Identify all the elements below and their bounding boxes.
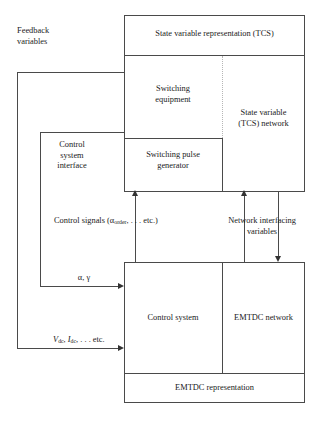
interface-path-bottom-segment [40,286,121,287]
annotation-vdc-idc-tail: , . . . etc. [76,335,105,344]
annotation-control-signals: Control signals (αorder, . . . etc.) [54,216,214,228]
annotation-vdc-idc: Vdc, Idc, . . . etc. [53,335,143,347]
annotation-control-signals-subscript: order [114,219,126,225]
pulse-network-divider [222,138,223,192]
block-label-control-system: Control system [124,313,222,324]
diagram-canvas: State variable representation (TCS) Swit… [0,0,322,424]
annotation-control-system-interface: Control system interface [32,140,112,172]
interface-arrowhead-alpha-gamma [118,283,124,289]
annotation-control-signals-main: Control signals (α [54,216,114,225]
block-label-state-variable-representation: State variable representation (TCS) [124,29,305,40]
block-label-switching-pulse-generator: Switching pulse generator [124,150,222,171]
block-label-state-variable-network: State variable (TCS) network [222,108,305,129]
control-signals-arrowhead [132,190,138,196]
tcs-header-divider [124,55,305,56]
feedback-path-bottom-segment [17,348,121,349]
switching-pulse-divider [124,138,222,139]
feedback-path-top-segment [17,72,124,73]
annotation-alpha-gamma: α, γ [54,273,114,284]
control-signals-line [135,196,136,262]
interface-path-top-segment [40,132,124,133]
annotation-control-signals-tail: , . . . etc.) [126,216,157,225]
network-interfacing-down-arrowhead [275,256,281,262]
block-label-switching-equipment: Switching equipment [124,84,222,105]
feedback-path-left-segment [17,72,18,348]
annotation-network-interfacing-variables: Network interfacing variables [207,216,317,237]
block-label-emtdc-representation: EMTDC representation [124,383,305,394]
network-interfacing-up-arrowhead [241,190,247,196]
block-label-emtdc-network: EMTDC network [222,313,305,324]
emtdc-outer-box [124,262,305,403]
annotation-feedback-variables: Feedback variables [17,26,97,47]
emtdc-footer-divider [124,373,305,374]
